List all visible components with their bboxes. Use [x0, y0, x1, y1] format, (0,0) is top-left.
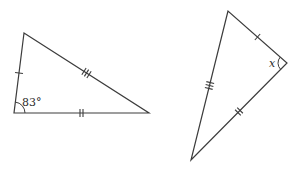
right-triangle-angle-label: x: [269, 57, 276, 70]
triangle-outline: [191, 11, 287, 160]
right-triangle: [191, 11, 287, 160]
left-triangle-angle-label: 83°: [22, 96, 42, 109]
side-tick: [15, 73, 23, 74]
angle-arc: [278, 57, 281, 69]
triangle-diagram: 83° x: [0, 0, 295, 170]
